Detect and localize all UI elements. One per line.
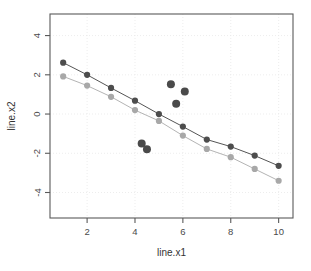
data-point-marker	[204, 146, 210, 152]
y-axis-ticks	[45, 36, 50, 193]
y-tick-label: 4	[32, 33, 43, 38]
data-point-marker	[228, 144, 234, 150]
data-point-marker	[276, 163, 282, 169]
outlier-point-marker	[143, 145, 151, 153]
data-point-marker	[180, 123, 186, 129]
x-tick-label: 6	[180, 226, 185, 237]
y-tick-label: 2	[32, 72, 43, 77]
scatter-plot-figure: 246810 420-2-4 line.x1 line.x2	[0, 0, 311, 271]
y-axis-tick-labels: 420-2-4	[32, 33, 43, 197]
outlier-point-marker	[172, 100, 180, 108]
data-point-marker	[156, 118, 162, 124]
x-axis-title: line.x1	[157, 247, 186, 258]
data-point-marker	[132, 98, 138, 104]
x-tick-label: 4	[132, 226, 137, 237]
data-point-marker	[132, 107, 138, 113]
data-point-marker	[228, 154, 234, 160]
plot-panel-background	[50, 14, 293, 218]
data-point-marker	[60, 60, 66, 66]
data-point-marker	[60, 73, 66, 79]
x-tick-label: 8	[228, 226, 233, 237]
x-axis-ticks	[87, 218, 279, 223]
data-point-marker	[276, 178, 282, 184]
outlier-point-marker	[167, 80, 175, 88]
x-tick-label: 10	[273, 226, 284, 237]
outlier-point-marker	[181, 87, 189, 95]
data-point-marker	[180, 133, 186, 139]
data-point-marker	[84, 72, 90, 78]
y-tick-label: 0	[32, 111, 43, 116]
y-tick-label: -2	[32, 149, 43, 157]
data-point-marker	[204, 136, 210, 142]
data-point-marker	[108, 85, 114, 91]
plot-container: 246810 420-2-4 line.x1 line.x2	[0, 0, 311, 271]
data-point-marker	[252, 153, 258, 159]
data-point-marker	[156, 111, 162, 117]
y-axis-title: line.x2	[6, 101, 17, 130]
data-point-marker	[252, 166, 258, 172]
y-tick-label: -4	[32, 188, 43, 196]
x-tick-label: 2	[84, 226, 89, 237]
x-axis-tick-labels: 246810	[84, 226, 283, 237]
data-point-marker	[108, 94, 114, 100]
data-point-marker	[84, 82, 90, 88]
